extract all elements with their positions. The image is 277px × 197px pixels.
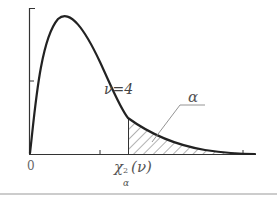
nu-label: ν=4 bbox=[104, 81, 133, 97]
critical-value-label: χ2α(ν) bbox=[114, 158, 152, 176]
origin-label: 0 bbox=[27, 159, 35, 173]
chi-symbol: χ bbox=[114, 158, 123, 176]
chi-square-figure: 0 ν=4 α χ2α(ν) bbox=[0, 0, 277, 197]
chi-superscript: 2 bbox=[123, 166, 128, 175]
chi-argument: (ν) bbox=[131, 158, 152, 176]
chi-subscript: α bbox=[123, 178, 129, 188]
alpha-label: α bbox=[188, 88, 198, 106]
